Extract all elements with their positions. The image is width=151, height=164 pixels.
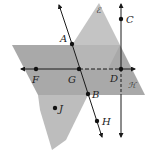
label-a: A bbox=[59, 33, 67, 44]
label-f: F bbox=[31, 74, 40, 85]
label-plane-h: ℋ bbox=[128, 81, 137, 90]
label-c: C bbox=[126, 14, 134, 25]
label-b: B bbox=[91, 89, 99, 100]
point-d bbox=[119, 67, 123, 71]
planes-diagram: A B C D F G H J ℰ ℋ bbox=[0, 0, 151, 164]
label-d: D bbox=[109, 73, 118, 84]
label-g: G bbox=[68, 74, 76, 85]
diagram-canvas: A B C D F G H J ℰ ℋ bbox=[0, 0, 151, 164]
point-a bbox=[70, 42, 74, 46]
point-j bbox=[53, 106, 57, 110]
point-c bbox=[119, 17, 123, 21]
label-h: H bbox=[101, 116, 111, 127]
point-h bbox=[95, 119, 99, 123]
point-f bbox=[34, 67, 38, 71]
point-g bbox=[77, 67, 81, 71]
label-j: J bbox=[57, 103, 64, 114]
point-b bbox=[86, 92, 90, 96]
